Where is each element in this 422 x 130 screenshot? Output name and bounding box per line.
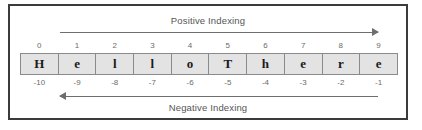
positive-index-cell: 4 — [171, 38, 209, 54]
positive-index-cell: 1 — [58, 38, 96, 54]
positive-index-cell: 3 — [134, 38, 172, 54]
positive-index-cell: 2 — [96, 38, 134, 54]
positive-index-cell: 7 — [284, 38, 322, 54]
character-cell: e — [284, 54, 322, 75]
negative-index-cell: -1 — [360, 75, 398, 91]
table-row-positive-indices: 0 1 2 3 4 5 6 7 8 9 — [21, 38, 398, 54]
positive-index-cell: 6 — [247, 38, 285, 54]
negative-indexing-arrow — [60, 91, 378, 102]
positive-indexing-arrow — [60, 27, 378, 38]
table-row-negative-indices: -10 -9 -8 -7 -6 -5 -4 -3 -2 -1 — [21, 75, 398, 91]
negative-index-cell: -2 — [322, 75, 360, 91]
negative-index-cell: -6 — [171, 75, 209, 91]
character-cell: T — [209, 54, 247, 75]
character-cell: H — [21, 54, 59, 75]
indexing-diagram-frame: Positive Indexing 0 1 2 3 4 5 6 7 8 9 H … — [8, 4, 408, 120]
string-index-table: 0 1 2 3 4 5 6 7 8 9 H e l l o T h e r — [20, 38, 398, 90]
positive-indexing-label: Positive Indexing — [10, 15, 406, 26]
negative-index-cell: -3 — [284, 75, 322, 91]
negative-indexing-label: Negative Indexing — [10, 102, 406, 113]
character-cell: l — [134, 54, 172, 75]
positive-index-cell: 9 — [360, 38, 398, 54]
positive-index-cell: 0 — [21, 38, 59, 54]
character-cell: e — [360, 54, 398, 75]
character-cell: r — [322, 54, 360, 75]
arrow-line — [60, 32, 378, 33]
negative-index-cell: -7 — [134, 75, 172, 91]
table-row-characters: H e l l o T h e r e — [21, 54, 398, 75]
arrow-head-right-icon — [372, 28, 379, 36]
arrow-line — [60, 96, 378, 97]
arrow-head-left-icon — [59, 92, 66, 100]
negative-index-cell: -8 — [96, 75, 134, 91]
negative-index-cell: -10 — [21, 75, 59, 91]
negative-index-cell: -5 — [209, 75, 247, 91]
character-cell: l — [96, 54, 134, 75]
negative-index-cell: -4 — [247, 75, 285, 91]
positive-index-cell: 5 — [209, 38, 247, 54]
character-cell: h — [247, 54, 285, 75]
positive-index-cell: 8 — [322, 38, 360, 54]
negative-index-cell: -9 — [58, 75, 96, 91]
character-cell: e — [58, 54, 96, 75]
character-cell: o — [171, 54, 209, 75]
